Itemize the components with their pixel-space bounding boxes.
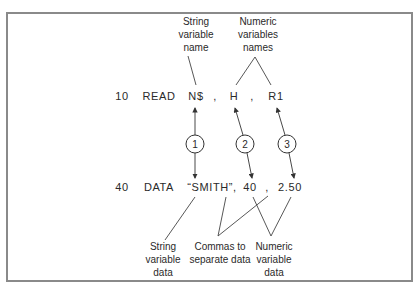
read-comma: ,: [250, 90, 254, 102]
label-line: variables: [238, 28, 278, 41]
circle-2: 2: [236, 135, 255, 154]
data-value-2-50: 2.50: [278, 181, 302, 193]
data-value-40: 40: [243, 181, 256, 193]
read-comma: ,: [213, 90, 217, 102]
read-keyword: READ: [143, 90, 176, 102]
data-value-smith: “SMITH”,: [187, 181, 236, 193]
label-line: String: [178, 15, 213, 28]
read-var-string: N$: [188, 90, 203, 102]
label-line: data: [255, 266, 292, 279]
label-line: separate data: [189, 253, 250, 266]
label-string-variable-data: String variable data: [145, 240, 180, 279]
label-string-variable-name: String variable name: [178, 15, 213, 54]
data-comma: ,: [265, 181, 269, 193]
read-var-h: H: [230, 90, 239, 102]
label-line: name: [178, 41, 213, 54]
data-keyword: DATA: [144, 181, 174, 193]
label-commas-separate-data: Commas to separate data: [189, 240, 250, 266]
circle-1: 1: [186, 135, 205, 154]
label-line: data: [145, 266, 180, 279]
read-line-number: 10: [115, 90, 128, 102]
label-line: names: [238, 41, 278, 54]
label-numeric-variables-names: Numeric variables names: [238, 15, 278, 54]
label-line: Commas to: [189, 240, 250, 253]
label-line: Numeric: [238, 15, 278, 28]
label-numeric-variable-data: Numeric variable data: [255, 240, 292, 279]
data-line-number: 40: [115, 181, 128, 193]
circle-3: 3: [278, 135, 297, 154]
label-line: variable: [178, 28, 213, 41]
label-line: variable: [145, 253, 180, 266]
label-line: Numeric: [255, 240, 292, 253]
label-line: String: [145, 240, 180, 253]
read-var-r1: R1: [268, 90, 283, 102]
label-line: variable: [255, 253, 292, 266]
